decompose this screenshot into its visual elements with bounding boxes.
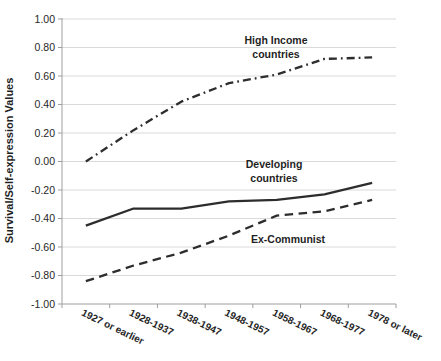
- x-axis-label: 1968-1977: [319, 307, 367, 338]
- annotation-line: Developing: [246, 158, 303, 170]
- annotation-developing-countries: Developing countries: [214, 157, 334, 185]
- annotation-line: Ex-Communist: [251, 233, 325, 245]
- chart-container: Survival/Self-expression Values 1.000.80…: [0, 0, 441, 361]
- x-axis-label: 1948-1957: [223, 307, 271, 338]
- y-tick-label: 0.40: [35, 98, 56, 110]
- annotation-ex-communist: Ex-Communist: [228, 232, 348, 246]
- annotation-line: High Income: [244, 34, 307, 46]
- y-tick-label: 0.80: [35, 41, 56, 53]
- y-tick-label: 0.00: [35, 155, 56, 167]
- series-line-developing-countries: [86, 183, 372, 226]
- x-axis-label: 1938-1947: [175, 307, 223, 338]
- x-axis-label: 1978 or later: [366, 307, 424, 343]
- y-tick-label: -1.00: [31, 298, 55, 310]
- annotation-line: countries: [252, 48, 299, 60]
- y-tick-label: -0.80: [31, 269, 55, 281]
- x-axis-label: 1958-1967: [271, 307, 319, 338]
- y-tick-label: 0.60: [35, 70, 56, 82]
- y-tick-label: -0.60: [31, 241, 55, 253]
- annotation-line: countries: [250, 172, 297, 184]
- y-tick-label: -0.20: [31, 184, 55, 196]
- series-line-high-income-countries: [86, 57, 372, 161]
- annotation-high-income-countries: High Income countries: [216, 33, 336, 61]
- y-tick-label: -0.40: [31, 212, 55, 224]
- y-tick-label: 0.20: [35, 127, 56, 139]
- y-tick-label: 1.00: [35, 13, 56, 25]
